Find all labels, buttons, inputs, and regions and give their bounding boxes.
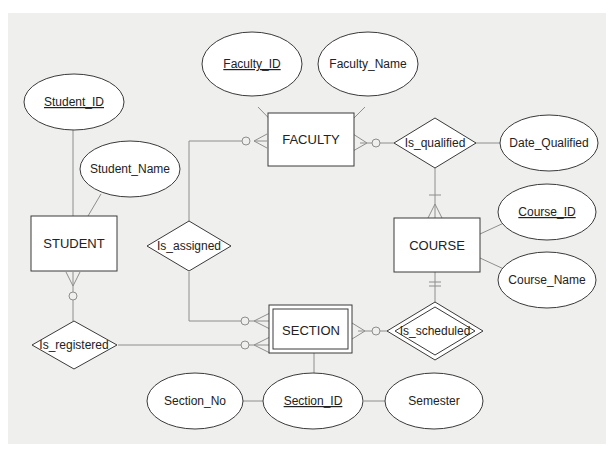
attribute-label: Faculty_ID [223, 57, 281, 71]
attribute-label: Date_Qualified [509, 136, 588, 150]
entity-course[interactable]: COURSE [394, 218, 480, 272]
attribute-label: Course_Name [508, 273, 586, 287]
attribute-faculty-name[interactable]: Faculty_Name [318, 32, 418, 96]
attribute-label: Section_ID [284, 394, 343, 408]
entity-faculty[interactable]: FACULTY [268, 113, 354, 166]
attribute-section-id[interactable]: Section_ID [263, 373, 363, 429]
attribute-label: Course_ID [518, 205, 576, 219]
attribute-label: Student_ID [44, 95, 104, 109]
entity-label: STUDENT [43, 236, 104, 251]
entity-section-weak[interactable]: SECTION [269, 305, 352, 353]
relationship-label: Is_scheduled [400, 324, 471, 338]
entity-student[interactable]: STUDENT [31, 216, 117, 271]
relationship-label: Is_assigned [157, 239, 221, 253]
attribute-label: Student_Name [90, 162, 170, 176]
attribute-course-name[interactable]: Course_Name [498, 252, 596, 308]
attribute-label: Section_No [164, 394, 226, 408]
er-diagram: Faculty_ID Faculty_Name Student_ID Stude… [0, 0, 616, 452]
attribute-course-id[interactable]: Course_ID [498, 184, 596, 240]
attribute-label: Semester [408, 394, 459, 408]
relationship-label: Is_registered [39, 338, 108, 352]
attribute-label: Faculty_Name [329, 57, 407, 71]
attribute-semester[interactable]: Semester [385, 373, 483, 429]
attribute-student-name[interactable]: Student_Name [80, 141, 180, 197]
attribute-student-id[interactable]: Student_ID [24, 74, 124, 130]
attribute-faculty-id[interactable]: Faculty_ID [202, 32, 302, 96]
entity-label: FACULTY [282, 132, 340, 147]
relationship-label: Is_qualified [405, 136, 466, 150]
entity-label: COURSE [409, 238, 465, 253]
attribute-date-qualified[interactable]: Date_Qualified [500, 115, 598, 171]
attribute-section-no[interactable]: Section_No [147, 373, 243, 429]
entity-label: SECTION [282, 323, 340, 338]
